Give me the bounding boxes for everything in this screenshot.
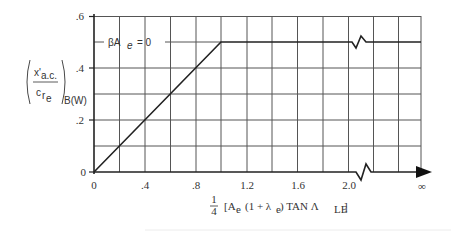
svg-text:c: c [36,87,41,98]
svg-text:e: e [236,203,241,215]
svg-text:βA: βA [108,37,121,48]
svg-text:4: 4 [211,205,217,217]
x-tick-label: .4 [141,179,150,191]
svg-text:e: e [127,40,133,51]
y-tick-label: .2 [76,114,84,126]
svg-text:x': x' [34,67,41,78]
svg-text:B(W): B(W) [64,95,87,106]
x-axis-arrow-icon [416,166,432,178]
svg-text:]: ] [344,200,348,212]
svg-text:[A: [A [224,200,236,212]
x-tick-label-infinity: ∞ [418,180,426,192]
x-tick-label: .8 [192,179,201,191]
svg-text:= 0: = 0 [137,37,152,48]
grid-horizontal-lines [94,17,421,147]
y-tick-label: .4 [76,62,85,74]
svg-text:1: 1 [211,193,217,205]
chart: .6 .4 .2 0 0 .4 .8 1.2 1.6 2.0 ∞ βA e = … [0,0,451,232]
x-axis [94,164,420,180]
svg-text:a.c.: a.c. [41,70,57,81]
y-tick-label: 0 [81,166,87,178]
svg-text:) TAN Λ: ) TAN Λ [280,200,319,213]
svg-text:(1 + λ: (1 + λ [245,200,272,213]
x-axis-label: 1 4 [A e (1 + λ e ) TAN Λ LE ] [210,193,348,217]
x-tick-label: 1.2 [240,179,254,191]
svg-text:e: e [46,93,52,104]
x-tick-label: 1.6 [291,179,305,191]
x-tick-label: 0 [91,179,97,191]
data-line-beta-ae-0 [94,36,421,172]
y-tick-label: .6 [76,10,85,22]
x-tick-label: 2.0 [342,179,356,191]
